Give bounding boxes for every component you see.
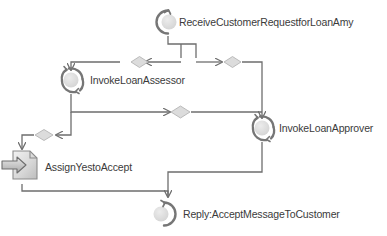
node-label-invoke-assessor: InvokeLoanAssessor xyxy=(90,74,185,86)
node-label-assign: AssignYestoAccept xyxy=(45,161,132,173)
node-assign[interactable] xyxy=(2,151,37,179)
invoke-assessor-arc-c-icon xyxy=(80,79,83,91)
diamond-gateway-approver-in[interactable] xyxy=(224,57,241,68)
diamond-gateway-assign-in[interactable] xyxy=(35,130,53,141)
edge-gw-to-invoke-assessor xyxy=(71,62,120,70)
edge-approver-to-reply xyxy=(168,142,262,197)
edge-assessor-to-gw-mid xyxy=(71,94,170,112)
edge-assign-to-reply xyxy=(22,184,168,197)
node-label-reply: Reply:AcceptMessageToCustomer xyxy=(183,208,340,220)
node-invoke-assessor[interactable] xyxy=(62,67,83,94)
node-label-receive: ReceiveCustomerRequestforLoanAmy xyxy=(179,16,353,28)
edge-gw-to-invoke-approver xyxy=(242,62,262,118)
node-group xyxy=(2,10,274,226)
edge-assessor-to-gw-assign xyxy=(56,112,71,135)
node-label-invoke-approver: InvokeLoanApprover xyxy=(279,122,373,134)
node-invoke-approver[interactable] xyxy=(253,115,274,142)
node-reply[interactable] xyxy=(154,201,176,226)
receive-activity-icon xyxy=(162,15,177,30)
flow-canvas xyxy=(0,0,387,236)
diamond-gateway-assessor-in[interactable] xyxy=(131,57,148,68)
reply-activity-icon xyxy=(154,207,169,222)
edge-gw-to-assign xyxy=(22,135,34,149)
node-receive[interactable] xyxy=(157,10,177,34)
invoke-approver-disc-icon xyxy=(255,121,270,136)
workflow-diagram: ReceiveCustomerRequestforLoanAmy InvokeL… xyxy=(0,0,387,236)
invoke-assessor-disc-icon xyxy=(64,73,79,88)
invoke-approver-arc-c-icon xyxy=(271,127,274,139)
edge-receive-to-split xyxy=(168,36,196,58)
diamond-gateway-assessor-out[interactable] xyxy=(171,106,190,118)
